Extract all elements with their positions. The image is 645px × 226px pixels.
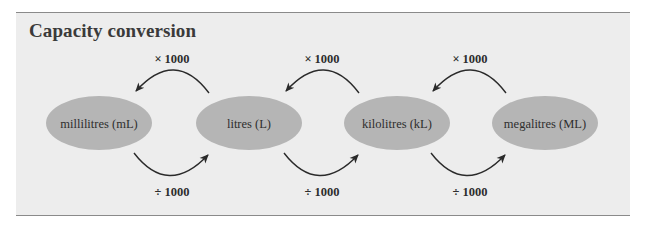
unit-label: megalitres (ML): [504, 117, 586, 131]
multiply-arrow-icon: [433, 70, 506, 93]
divide-arrow-icon: [431, 153, 505, 176]
multiply-label: × 1000: [154, 52, 189, 66]
unit-label: kilolitres (kL): [362, 117, 432, 131]
unit-label: litres (L): [227, 117, 271, 131]
conversion-diagram: millilitres (mL) litres (L) kilolitres (…: [0, 0, 645, 226]
divide-arrow-icon: [284, 153, 358, 176]
multiply-label: × 1000: [304, 52, 339, 66]
multiply-label: × 1000: [452, 52, 487, 66]
unit-label: millilitres (mL): [60, 117, 137, 131]
multiply-arrow-icon: [136, 70, 209, 93]
unit-kilolitres: kilolitres (kL): [344, 96, 450, 150]
divide-arrow-icon: [134, 153, 208, 176]
unit-megalitres: megalitres (ML): [492, 96, 598, 150]
unit-litres: litres (L): [196, 96, 302, 150]
unit-millilitres: millilitres (mL): [46, 96, 152, 150]
divide-label: ÷ 1000: [453, 185, 488, 199]
divide-label: ÷ 1000: [305, 185, 340, 199]
multiply-arrow-icon: [286, 70, 359, 93]
divide-label: ÷ 1000: [155, 185, 190, 199]
